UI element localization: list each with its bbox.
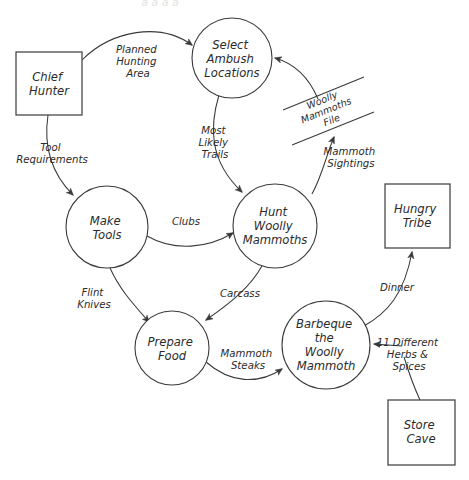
dfd-canvas: a a a a Planned Hunting Area Tool Requir… bbox=[0, 0, 469, 480]
process-label-line: Select bbox=[212, 38, 248, 52]
flow-carcass: Carcass bbox=[206, 266, 262, 320]
entity-store-cave[interactable]: Store Cave bbox=[388, 400, 455, 465]
data-store-woolly-mammoths-file: Woolly Mammoths File bbox=[283, 77, 374, 145]
flow-clubs: Clubs bbox=[147, 216, 233, 246]
entity-chief-hunter[interactable]: Chief Hunter bbox=[16, 52, 82, 115]
entity-label-line: Store bbox=[404, 418, 435, 432]
process-label-line: Woolly bbox=[254, 219, 293, 233]
flow-arrow-flint-knives bbox=[110, 268, 149, 322]
flow-label-tool-requirements: Tool Requirements bbox=[16, 142, 88, 165]
flow-label-line: Area bbox=[125, 68, 150, 79]
flow-label-line: Hunting bbox=[116, 56, 157, 67]
process-label-line: Prepare bbox=[148, 335, 193, 349]
process-label-line: Hunt bbox=[259, 205, 287, 219]
entity-label-line: Hungry bbox=[394, 202, 437, 216]
process-label-line: Ambush bbox=[205, 52, 253, 66]
entity-label-store-cave: Store Cave bbox=[404, 418, 439, 446]
process-label-make-tools: Make Tools bbox=[90, 214, 125, 242]
flow-flint-knives: Flint Knives bbox=[77, 268, 149, 322]
flow-label-line: Knives bbox=[77, 299, 111, 310]
process-label-barbeque-the-woolly-mammoth: Barbeque the Woolly Mammoth bbox=[296, 317, 356, 373]
flow-label-line: Spices bbox=[393, 361, 427, 372]
flow-label-line: Mammoth bbox=[221, 348, 273, 359]
flow-label-line: Most bbox=[201, 125, 226, 136]
flow-label-mammoth-steaks: Mammoth Steaks bbox=[221, 348, 276, 371]
process-label-select-ambush-locations: Select Ambush Locations bbox=[204, 38, 259, 80]
data-store-label: Woolly Mammoths File bbox=[295, 84, 360, 136]
entity-label-line: Cave bbox=[406, 432, 435, 446]
flow-most-likely-trails: Most Likely Trails bbox=[199, 95, 242, 192]
process-label-line: Mammoth bbox=[297, 359, 356, 373]
flow-file-to-select-ambush bbox=[275, 58, 318, 99]
flow-label-line: Trails bbox=[202, 149, 230, 160]
entity-label-line: Hunter bbox=[29, 84, 70, 98]
flow-mammoth-sightings: Mammoth Sightings bbox=[312, 137, 378, 194]
flow-label-flint-knives: Flint Knives bbox=[77, 287, 111, 310]
process-select-ambush-locations[interactable]: Select Ambush Locations bbox=[192, 18, 272, 98]
entity-label-chief-hunter: Chief Hunter bbox=[29, 70, 70, 98]
flow-herbs-and-spices: 11 Different Herbs & Spices bbox=[374, 337, 441, 400]
flow-label-most-likely-trails: Most Likely Trails bbox=[199, 125, 232, 160]
flow-label-line: Herbs & bbox=[387, 349, 428, 360]
flow-label-carcass: Carcass bbox=[220, 288, 261, 299]
flow-label-line: Sightings bbox=[327, 158, 375, 169]
flow-label-line: Flint bbox=[81, 287, 104, 298]
process-label-line: Make bbox=[90, 214, 121, 228]
flow-label-line: Steaks bbox=[231, 360, 266, 371]
flow-label-line: Planned bbox=[116, 44, 157, 55]
flow-label-line: Tool bbox=[40, 142, 60, 153]
flow-label-line: 11 Different bbox=[377, 337, 439, 348]
flow-label-mammoth-sightings: Mammoth Sightings bbox=[324, 146, 379, 169]
flow-arrow-clubs bbox=[147, 233, 233, 246]
process-label-line: Locations bbox=[204, 66, 259, 80]
process-label-line: the bbox=[315, 331, 334, 345]
process-make-tools[interactable]: Make Tools bbox=[66, 186, 148, 268]
flow-label-line: Mammoth bbox=[324, 146, 376, 157]
process-label-line: Food bbox=[158, 349, 187, 363]
process-label-line: Mammoths bbox=[243, 233, 308, 247]
process-barbeque-the-woolly-mammoth[interactable]: Barbeque the Woolly Mammoth bbox=[282, 301, 370, 389]
process-prepare-food[interactable]: Prepare Food bbox=[135, 311, 209, 385]
flow-mammoth-steaks: Mammoth Steaks bbox=[206, 348, 282, 380]
process-hunt-woolly-mammoths[interactable]: Hunt Woolly Mammoths bbox=[233, 184, 317, 268]
flow-label-planned-hunting-area: Planned Hunting Area bbox=[116, 44, 160, 79]
process-label-line: Barbeque bbox=[296, 317, 352, 331]
flow-arrow-file-to-select-ambush bbox=[275, 58, 318, 99]
clipped-top-text: a a a a bbox=[141, 0, 179, 9]
flow-label-herbs-and-spices: 11 Different Herbs & Spices bbox=[377, 337, 442, 372]
flow-tool-requirements: Tool Requirements bbox=[16, 115, 88, 195]
flow-label-dinner: Dinner bbox=[380, 282, 415, 293]
flow-label-line: Likely bbox=[199, 137, 230, 148]
flow-dinner: Dinner bbox=[364, 252, 415, 326]
flow-planned-hunting-area: Planned Hunting Area bbox=[82, 32, 192, 79]
entity-label-line: Chief bbox=[32, 70, 64, 84]
entity-label-line: Tribe bbox=[403, 216, 432, 230]
entity-hungry-tribe[interactable]: Hungry Tribe bbox=[385, 184, 450, 248]
flow-label-line: Requirements bbox=[16, 154, 88, 165]
process-label-line: Tools bbox=[92, 228, 121, 242]
process-label-line: Woolly bbox=[305, 345, 344, 359]
dfd-svg-surface: a a a a Planned Hunting Area Tool Requir… bbox=[0, 0, 469, 480]
flow-label-clubs: Clubs bbox=[172, 216, 201, 227]
